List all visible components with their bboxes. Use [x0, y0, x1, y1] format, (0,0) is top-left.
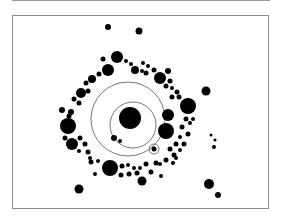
- ring-dot: [184, 117, 189, 122]
- ring-dot: [127, 172, 132, 177]
- ring-dot: [165, 68, 171, 74]
- ring-dot: [93, 172, 97, 176]
- ring-dot: [210, 134, 213, 137]
- orbital-diagram: [0, 0, 287, 224]
- ring-dot: [180, 125, 185, 130]
- ring-dot: [111, 135, 117, 141]
- ring-dot: [60, 118, 76, 134]
- ring-dot: [124, 59, 128, 63]
- ring-dot: [202, 87, 211, 96]
- ring-dot: [180, 98, 196, 114]
- ring-dot: [191, 117, 195, 121]
- ring-dot: [164, 158, 169, 163]
- ring-dot: [149, 170, 154, 175]
- ring-dot: [84, 81, 89, 86]
- ring-dot: [158, 123, 174, 139]
- ring-dot: [177, 95, 182, 100]
- ring-dot: [170, 95, 175, 100]
- ring-dot: [159, 174, 163, 178]
- ring-dot: [164, 84, 169, 89]
- ring-dot: [170, 86, 174, 90]
- ring-dot: [168, 79, 173, 84]
- ring-dot: [105, 24, 111, 30]
- ring-dot: [77, 101, 82, 106]
- ring-dot: [83, 142, 88, 147]
- ring-dot: [76, 88, 86, 98]
- ring-dot: [78, 136, 83, 141]
- ring-dot: [97, 72, 102, 77]
- ring-dot: [96, 159, 100, 163]
- ring-dot: [214, 139, 217, 142]
- ring-dot: [168, 147, 173, 152]
- ring-dot: [138, 166, 142, 170]
- ring-dot: [146, 64, 150, 68]
- ring-dot: [136, 28, 143, 35]
- ring-dot: [132, 166, 136, 170]
- ring-dot: [63, 136, 68, 141]
- ring-dot: [126, 163, 130, 167]
- ring-dot: [178, 148, 182, 152]
- ring-dot: [154, 72, 166, 84]
- ring-dot: [158, 162, 162, 166]
- ring-dot: [59, 107, 65, 113]
- ring-dot: [212, 145, 216, 149]
- ring-dot: [144, 162, 149, 167]
- ring-dot: [120, 164, 125, 169]
- ring-dot: [141, 61, 145, 65]
- ring-dot: [144, 71, 149, 76]
- ring-dot: [182, 142, 187, 147]
- ring-dot: [171, 161, 175, 165]
- ring-dot: [102, 64, 114, 76]
- ring-dot: [66, 138, 78, 150]
- ring-dot: [101, 57, 106, 62]
- ring-dot: [178, 135, 182, 139]
- ring-dot: [204, 179, 214, 189]
- ring-dot: [129, 62, 133, 66]
- ring-dot: [89, 160, 94, 165]
- ring-dot: [135, 171, 140, 176]
- ring-dot: [174, 142, 179, 147]
- ring-dot: [174, 156, 178, 160]
- ring-dot: [88, 156, 92, 160]
- ring-dot: [152, 68, 157, 73]
- ring-dot: [162, 109, 174, 121]
- ring-dot: [102, 160, 118, 176]
- ring-dot: [118, 139, 122, 143]
- ring-circles: [59, 24, 221, 198]
- ring-dot: [154, 161, 159, 166]
- ring-dot: [75, 185, 84, 194]
- ring-dot: [138, 177, 147, 186]
- small-orbit-body: [152, 147, 157, 152]
- ring-dot: [86, 150, 91, 155]
- ring-dot: [131, 66, 139, 74]
- center-body: [119, 107, 141, 129]
- ring-dot: [188, 121, 192, 125]
- ring-dot: [186, 132, 191, 137]
- ring-dot: [72, 97, 77, 102]
- ring-dot: [175, 90, 180, 95]
- ring-dot: [88, 75, 96, 83]
- ring-dot: [77, 149, 81, 153]
- ring-dot: [111, 51, 123, 63]
- ring-dot: [119, 173, 124, 178]
- ring-dot: [140, 69, 144, 73]
- ring-dot: [86, 89, 91, 94]
- ring-dot: [67, 114, 72, 119]
- ring-dot: [215, 192, 221, 198]
